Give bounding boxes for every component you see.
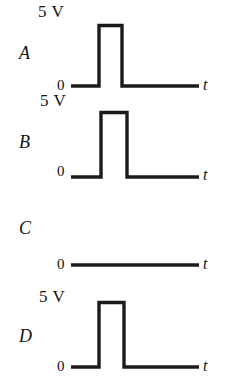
waveform-trace-b bbox=[0, 95, 226, 190]
waveform-trace-d bbox=[0, 285, 226, 390]
waveform-row-a: 5 V A 0 t bbox=[0, 0, 226, 95]
waveform-trace-a bbox=[0, 0, 226, 95]
time-axis-label-c: t bbox=[203, 256, 207, 272]
waveform-row-d: 5 V D 0 t bbox=[0, 285, 226, 390]
time-axis-label-b: t bbox=[203, 167, 207, 183]
time-axis-label-d: t bbox=[203, 358, 207, 374]
waveform-trace-c bbox=[0, 190, 226, 285]
waveform-row-b: 5 V B 0 t bbox=[0, 95, 226, 190]
time-axis-label-a: t bbox=[203, 77, 207, 93]
waveform-row-c: C 0 t bbox=[0, 190, 226, 285]
pulse-timing-diagram: 5 V A 0 t 5 V B 0 t C 0 t 5 V D 0 bbox=[0, 0, 226, 390]
